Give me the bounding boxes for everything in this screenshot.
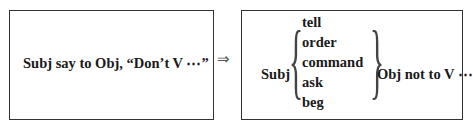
direct-speech-pattern: Subj say to Obj, “Don’t V ⋯” [23, 55, 209, 72]
verb-item: beg [302, 92, 363, 112]
reported-speech-box: Subj { tell order command ask beg } Obj … [241, 10, 463, 120]
right-brace-icon: } [370, 19, 384, 103]
verb-list: tell order command ask beg [302, 12, 363, 112]
direct-speech-box: Subj say to Obj, “Don’t V ⋯” [9, 10, 214, 120]
left-brace-icon: { [289, 19, 303, 103]
subject-label: Subj [261, 66, 290, 83]
verb-item: tell [302, 12, 363, 32]
transform-arrow-icon: ⇒ [217, 50, 230, 68]
verb-item: order [302, 32, 363, 52]
reported-pattern-tail: Obj not to V ⋯ [377, 66, 473, 83]
verb-item: ask [302, 72, 363, 92]
verb-item: command [302, 52, 363, 72]
